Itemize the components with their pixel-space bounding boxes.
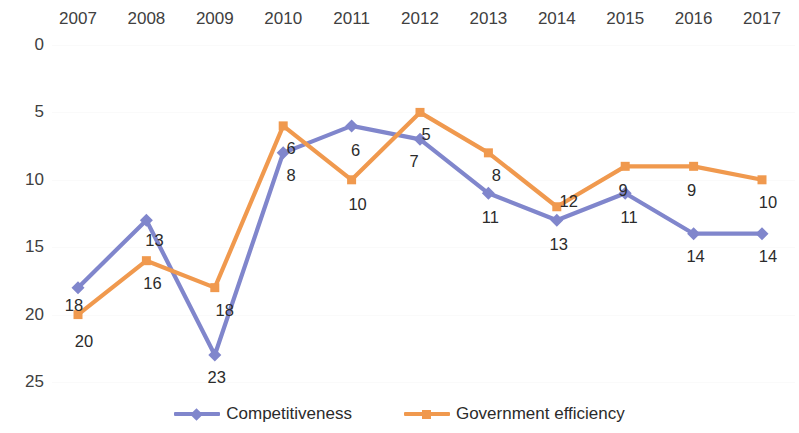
data-point-label: 16: [143, 273, 161, 292]
series-layer: [0, 0, 799, 433]
gridline: [52, 45, 795, 46]
chart-page: 0510152025 20072008200920102011201220132…: [0, 0, 799, 433]
legend-swatch: [404, 407, 450, 421]
data-point-label: 11: [621, 208, 638, 227]
y-axis-tick-label: 10: [6, 170, 44, 190]
data-point-marker: [756, 227, 769, 240]
gridline: [52, 382, 795, 383]
data-point-label: 13: [145, 231, 163, 250]
data-point-label: 12: [560, 191, 578, 210]
data-point-label: 13: [550, 235, 568, 254]
data-point-marker: [345, 119, 358, 132]
x-axis-tick-label: 2017: [743, 9, 781, 29]
x-axis-tick-label: 2010: [264, 9, 302, 29]
x-axis-tick-label: 2014: [538, 9, 576, 29]
x-axis-tick-label: 2012: [401, 9, 439, 29]
data-point-label: 9: [619, 181, 628, 200]
data-point-label: 7: [409, 152, 418, 171]
data-point-marker: [279, 121, 288, 130]
data-point-label: 6: [287, 138, 296, 157]
data-point-marker: [550, 214, 563, 227]
gridline: [52, 112, 795, 113]
x-axis-tick-label: 2013: [469, 9, 507, 29]
data-point-label: 14: [759, 246, 777, 265]
legend-entry[interactable]: Competitiveness: [174, 404, 352, 424]
data-point-label: 14: [686, 246, 704, 265]
gridline: [52, 315, 795, 316]
data-point-marker: [140, 214, 153, 227]
data-point-marker: [482, 187, 495, 200]
series-2: [74, 108, 767, 319]
legend-entry[interactable]: Government efficiency: [404, 404, 625, 424]
y-axis-tick-label: 25: [6, 372, 44, 392]
data-point-label: 10: [348, 194, 366, 213]
line-chart: 0510152025 20072008200920102011201220132…: [0, 0, 799, 433]
x-axis-tick-label: 2009: [196, 9, 234, 29]
data-point-marker: [142, 256, 151, 265]
x-axis-tick-label: 2011: [333, 9, 370, 29]
data-point-marker: [484, 148, 493, 157]
data-point-marker: [621, 162, 630, 171]
y-axis-tick-label: 15: [6, 237, 44, 257]
data-point-label: 20: [75, 331, 93, 350]
series-line: [78, 112, 762, 314]
data-point-label: 11: [482, 208, 499, 227]
data-point-marker: [689, 162, 698, 171]
gridline: [52, 180, 795, 181]
data-point-label: 9: [687, 181, 696, 200]
data-point-label: 5: [421, 125, 430, 144]
legend-swatch: [174, 407, 220, 421]
data-point-marker: [687, 227, 700, 240]
legend-label: Government efficiency: [456, 404, 625, 424]
x-axis-tick-label: 2007: [59, 9, 97, 29]
data-point-marker: [210, 283, 219, 292]
data-point-label: 8: [492, 165, 501, 184]
data-point-marker: [72, 281, 85, 294]
data-point-label: 23: [208, 368, 226, 387]
data-point-label: 18: [216, 300, 234, 319]
legend-diamond-marker-icon: [190, 408, 203, 421]
data-point-label: 18: [65, 295, 83, 314]
y-axis-tick-label: 0: [6, 35, 44, 55]
data-point-label: 8: [287, 165, 296, 184]
x-axis-tick-label: 2015: [606, 9, 644, 29]
x-axis-tick-label: 2016: [675, 9, 713, 29]
data-point-label: 10: [759, 192, 777, 211]
series-line: [78, 126, 762, 355]
data-point-marker: [208, 349, 221, 362]
chart-legend: CompetitivenessGovernment efficiency: [0, 404, 799, 424]
legend-square-marker-icon: [422, 410, 431, 419]
series-1: [72, 119, 769, 361]
legend-label: Competitiveness: [226, 404, 352, 424]
y-axis-tick-label: 5: [6, 102, 44, 122]
data-point-label: 6: [351, 140, 360, 159]
x-axis-tick-label: 2008: [127, 9, 165, 29]
y-axis-tick-label: 20: [6, 305, 44, 325]
